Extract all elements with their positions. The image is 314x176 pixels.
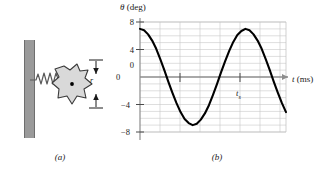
x-axis-units: (ms) — [295, 74, 314, 84]
y-tick-label-neg4: −4 — [114, 100, 130, 110]
figure-root: r (a) θ (deg) — [0, 0, 314, 176]
x-axis-arrowhead — [282, 74, 288, 80]
panel-a-spring-oscillator: r (a) — [0, 0, 120, 176]
x-axis-label: t (ms) — [292, 74, 313, 84]
chart-plot-area — [112, 0, 314, 150]
y-tick-label-neg8: −8 — [114, 127, 130, 137]
center-of-mass-dot — [70, 82, 74, 86]
radius-label: r — [90, 76, 93, 85]
x-tick-subscript: s — [238, 94, 240, 100]
y-tick-label-4: 4 — [118, 45, 134, 55]
x-tick-label-ts: ts — [236, 88, 241, 100]
y-tick-label-8: 8 — [118, 17, 134, 27]
panel-b-theta-vs-time-chart: θ (deg) — [112, 0, 314, 176]
caption-panel-b: (b) — [142, 152, 292, 162]
y-tick-label-0: 0 — [118, 60, 134, 70]
caption-panel-a: (a) — [0, 152, 120, 162]
origin-label: 0 — [116, 72, 120, 82]
wall-hatched-support — [24, 40, 35, 138]
